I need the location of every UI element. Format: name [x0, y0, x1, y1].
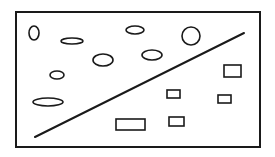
- ellipse-shape: [50, 71, 64, 79]
- circle-shape: [182, 27, 200, 45]
- diagram-frame: [16, 12, 260, 147]
- ellipse-shape: [126, 26, 144, 34]
- rectangle-class-group: [116, 65, 241, 130]
- rectangle-shape: [218, 95, 231, 103]
- ellipse-shape: [33, 98, 63, 106]
- divider-line: [35, 33, 244, 137]
- rectangle-shape: [224, 65, 241, 77]
- linear-separation-diagram: [0, 0, 275, 157]
- ellipse-shape: [142, 50, 162, 60]
- rectangle-shape: [167, 90, 180, 98]
- ellipse-shape: [61, 38, 83, 44]
- diagram-canvas: [0, 0, 275, 157]
- rectangle-shape: [169, 117, 184, 126]
- ellipse-shape: [93, 54, 113, 66]
- rectangle-shape: [116, 119, 145, 130]
- ellipse-class-group: [29, 26, 200, 106]
- ellipse-shape: [29, 26, 39, 40]
